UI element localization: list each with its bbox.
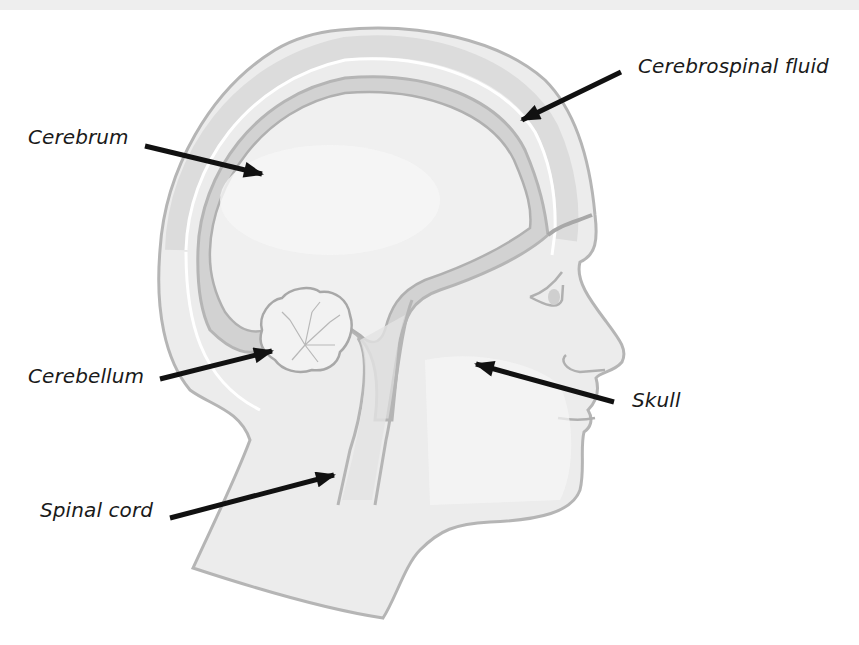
label-cerebellum: Cerebellum	[28, 364, 144, 388]
label-skull: Skull	[632, 388, 681, 412]
cerebellum-shape	[261, 288, 352, 372]
label-cerebrum: Cerebrum	[28, 125, 129, 149]
label-cerebrospinal-fluid: Cerebrospinal fluid	[638, 54, 829, 78]
label-spinal-cord: Spinal cord	[40, 498, 153, 522]
eye-shape	[548, 289, 560, 305]
head-illustration	[0, 0, 859, 645]
